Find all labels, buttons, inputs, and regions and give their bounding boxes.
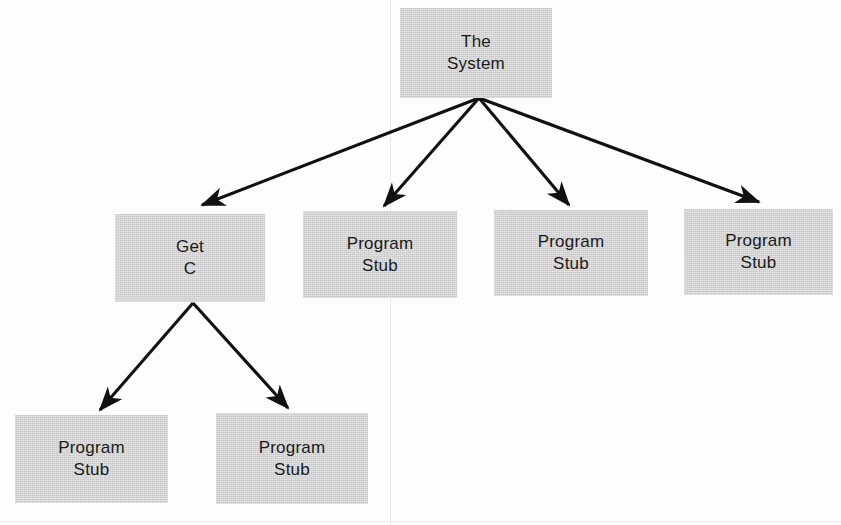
node-program-stub-5-label-line1: Program — [259, 437, 326, 459]
node-get-c[interactable]: Get C — [115, 214, 265, 302]
node-program-stub-4[interactable]: Program Stub — [15, 415, 168, 503]
edge-root-to-stub-3 — [479, 98, 759, 202]
edge-get-c-to-stub-5 — [193, 303, 288, 408]
page-scan-artifact-bottom — [0, 521, 841, 522]
node-the-system-label-line2: System — [447, 53, 505, 75]
node-the-system[interactable]: The System — [400, 8, 552, 98]
node-program-stub-1-label-line1: Program — [347, 233, 414, 255]
edge-root-to-get-c — [202, 98, 479, 205]
node-program-stub-1-label-line2: Stub — [362, 255, 398, 277]
node-program-stub-2[interactable]: Program Stub — [494, 210, 648, 296]
node-get-c-label-line2: C — [184, 258, 196, 280]
node-program-stub-3-label-line1: Program — [725, 230, 792, 252]
node-program-stub-5[interactable]: Program Stub — [216, 413, 368, 504]
node-the-system-label-line1: The — [461, 31, 491, 53]
node-program-stub-2-label-line2: Stub — [553, 253, 589, 275]
node-program-stub-3[interactable]: Program Stub — [684, 209, 833, 295]
node-program-stub-5-label-line2: Stub — [274, 459, 310, 481]
edge-root-to-stub-2 — [479, 98, 569, 205]
node-program-stub-4-label-line1: Program — [58, 437, 125, 459]
node-program-stub-1[interactable]: Program Stub — [303, 211, 457, 298]
node-program-stub-3-label-line2: Stub — [741, 252, 777, 274]
edge-get-c-to-stub-4 — [100, 303, 193, 410]
node-program-stub-4-label-line2: Stub — [74, 459, 110, 481]
edge-root-to-stub-1 — [384, 98, 479, 206]
node-get-c-label-line1: Get — [176, 236, 204, 258]
diagram-canvas: The System Get C Program Stub Program St… — [0, 0, 841, 525]
node-program-stub-2-label-line1: Program — [538, 231, 605, 253]
